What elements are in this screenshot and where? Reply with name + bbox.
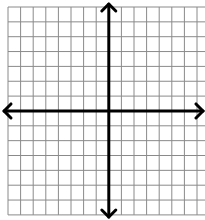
- coordinate-grid: [0, 0, 205, 220]
- coordinate-plane: [0, 0, 205, 220]
